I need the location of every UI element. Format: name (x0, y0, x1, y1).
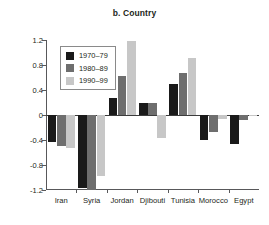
y-tick-mark (42, 40, 46, 41)
bar (48, 115, 57, 142)
bar-group (168, 40, 198, 190)
bar (139, 103, 148, 115)
x-tick-mark (229, 189, 230, 193)
bar (97, 115, 106, 176)
y-tick-mark (42, 140, 46, 141)
x-tick-label: Iran (55, 196, 68, 205)
bar (66, 115, 75, 148)
bar-group (229, 40, 259, 190)
x-tick-label: Morocco (199, 196, 228, 205)
bar-group (198, 40, 228, 190)
x-tick-mark (137, 189, 138, 193)
y-axis-labels: 1.20.80.40-0.4-0.8-1.2 (0, 40, 43, 190)
x-tick-label: Syria (83, 196, 100, 205)
bar (209, 115, 218, 132)
legend-label: 1980–89 (79, 64, 108, 73)
bar (78, 115, 87, 188)
legend-swatch-icon (66, 77, 74, 85)
legend-item: 1970–79 (66, 51, 108, 60)
legend-swatch-icon (66, 52, 74, 60)
bar-group (137, 40, 167, 190)
bar (109, 98, 118, 115)
x-tick-mark (76, 189, 77, 193)
bar (148, 103, 157, 115)
bar (218, 115, 227, 119)
legend-swatch-icon (66, 64, 74, 72)
bar (118, 76, 127, 115)
chart-legend: 1970–791980–891990–99 (60, 46, 116, 90)
bar (127, 41, 136, 115)
legend-label: 1990–99 (79, 76, 108, 85)
x-tick-label: Djibouti (140, 196, 165, 205)
chart-title: b. Country (0, 8, 269, 18)
legend-item: 1980–89 (66, 64, 108, 73)
x-tick-mark (168, 189, 169, 193)
x-tick-label: Egypt (234, 196, 253, 205)
legend-item: 1990–99 (66, 76, 108, 85)
bar (87, 115, 96, 190)
x-tick-label: Jordan (110, 196, 133, 205)
bar (239, 115, 248, 120)
y-tick-mark (42, 90, 46, 91)
x-tick-mark (198, 189, 199, 193)
bar (249, 115, 258, 116)
y-tick-mark (42, 190, 46, 191)
bar (200, 115, 209, 140)
legend-label: 1970–79 (79, 51, 108, 60)
x-tick-label: Tunisia (171, 196, 195, 205)
x-axis-labels: IranSyriaJordanDjiboutiTunisiaMoroccoEgy… (46, 196, 259, 212)
x-tick-mark (107, 189, 108, 193)
y-tick-mark (42, 165, 46, 166)
bar (157, 115, 166, 138)
bar (230, 115, 239, 144)
y-tick-mark (42, 65, 46, 66)
bar (57, 115, 66, 146)
bar (179, 73, 188, 115)
bar (188, 58, 197, 116)
plot-area: 1970–791980–891990–99 (46, 40, 259, 190)
bar (169, 84, 178, 115)
chart-container: b. Country 1.20.80.40-0.4-0.8-1.2 1970–7… (0, 0, 269, 225)
y-tick-mark (42, 115, 46, 116)
